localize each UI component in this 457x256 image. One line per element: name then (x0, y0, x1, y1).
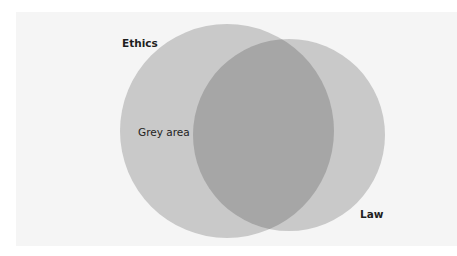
grey-area-label: Grey area (138, 126, 190, 138)
venn-diagram (0, 0, 457, 256)
ethics-label: Ethics (122, 37, 158, 49)
law-label: Law (360, 208, 383, 220)
